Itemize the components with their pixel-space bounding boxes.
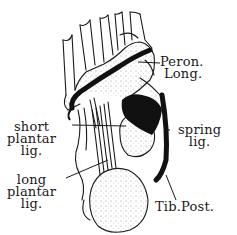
foot-ligaments-illustration: Peron. Long. short plantar lig. spring l… [0,0,237,235]
tib-post-leader [166,175,176,200]
label-long-plantar: long plantar lig. [7,174,56,210]
label-spring-line2: lig. [178,136,221,148]
label-long-plantar-line3: lig. [7,198,56,210]
label-peron-long: Peron. Long. [160,56,204,80]
label-short-plantar: short plantar lig. [7,121,56,157]
label-spring: spring lig. [178,124,221,148]
label-tib-post: Tib.Post. [155,201,214,213]
label-tib-post-line1: Tib.Post. [155,201,214,213]
label-short-plantar-line3: lig. [7,145,56,157]
label-peron-long-line2: Long. [160,68,204,80]
